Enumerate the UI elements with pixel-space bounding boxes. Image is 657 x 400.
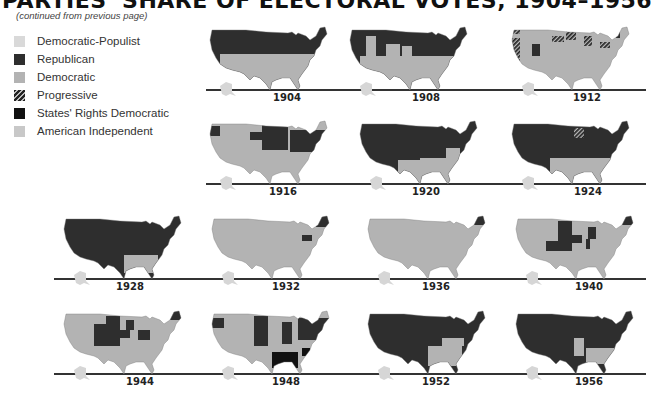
- year-label: 1912: [567, 92, 607, 103]
- year-label: 1940: [569, 281, 609, 292]
- map-1908: 1908: [346, 24, 476, 99]
- year-label: 1936: [416, 281, 456, 292]
- map-1928: 1928: [60, 213, 190, 288]
- year-label: 1952: [416, 376, 456, 387]
- map-1904: 1904: [206, 24, 336, 99]
- map-1936: 1936: [364, 213, 494, 288]
- swatch-american-independent: [14, 126, 25, 137]
- year-label: 1956: [569, 376, 609, 387]
- legend-label: American Independent: [37, 125, 153, 137]
- legend-item-progressive: Progressive: [14, 86, 169, 104]
- chart-subtitle: (continued from previous page): [16, 10, 148, 21]
- year-label: 1904: [267, 92, 307, 103]
- map-1916: 1916: [206, 118, 336, 193]
- swatch-republican: [14, 54, 25, 65]
- year-label: 1916: [263, 186, 303, 197]
- swatch-democratic-populist: [14, 36, 25, 47]
- map-1948: 1948: [208, 308, 338, 383]
- legend-item-republican: Republican: [14, 50, 169, 68]
- legend-item-states-rights-democratic: States' Rights Democratic: [14, 104, 169, 122]
- legend-label: Progressive: [37, 89, 98, 101]
- legend-label: Republican: [37, 53, 95, 65]
- year-label: 1928: [110, 281, 150, 292]
- legend: Democratic-Populist Republican Democrati…: [14, 32, 169, 140]
- swatch-progressive: [14, 90, 25, 101]
- map-1940: 1940: [512, 213, 642, 288]
- legend-label: Democratic: [37, 71, 95, 83]
- year-label: 1948: [266, 376, 306, 387]
- map-1956: 1956: [512, 308, 642, 383]
- year-label: 1944: [120, 376, 160, 387]
- legend-item-democratic: Democratic: [14, 68, 169, 86]
- swatch-democratic: [14, 72, 25, 83]
- map-1932: 1932: [208, 213, 338, 288]
- legend-item-american-independent: American Independent: [14, 122, 169, 140]
- year-label: 1932: [266, 281, 306, 292]
- map-1920: 1920: [356, 118, 486, 193]
- legend-label: Democratic-Populist: [37, 35, 140, 47]
- legend-label: States' Rights Democratic: [37, 107, 169, 119]
- year-label: 1920: [406, 186, 446, 197]
- map-1924: 1924: [508, 118, 638, 193]
- year-label: 1924: [568, 186, 608, 197]
- map-1952: 1952: [364, 308, 494, 383]
- map-1944: 1944: [60, 308, 190, 383]
- map-1912: 1912: [508, 24, 638, 99]
- swatch-states-rights-democratic: [14, 108, 25, 119]
- legend-item-democratic-populist: Democratic-Populist: [14, 32, 169, 50]
- year-label: 1908: [406, 92, 446, 103]
